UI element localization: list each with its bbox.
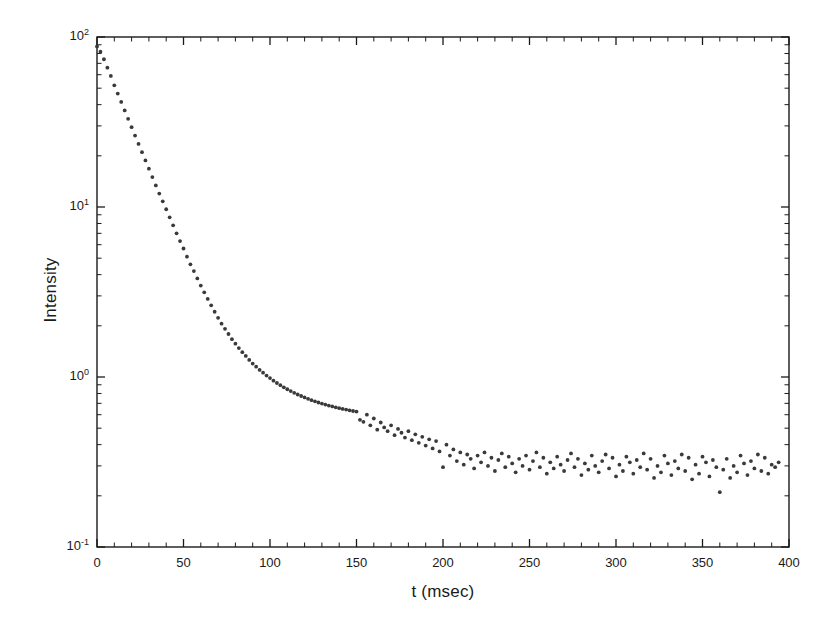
data-point <box>351 409 355 413</box>
data-point <box>368 423 372 427</box>
data-point <box>112 83 116 87</box>
data-point <box>313 399 317 403</box>
data-point <box>448 454 452 458</box>
data-point <box>669 473 673 477</box>
data-point <box>223 327 227 331</box>
data-point <box>611 456 615 460</box>
x-tick-label: 0 <box>67 555 127 570</box>
data-point <box>272 379 276 383</box>
data-point <box>763 456 767 460</box>
data-point <box>247 358 251 362</box>
data-point <box>296 393 300 397</box>
data-point <box>656 464 660 468</box>
data-point <box>445 443 449 447</box>
data-point <box>725 457 729 461</box>
data-point <box>659 470 663 474</box>
data-point <box>227 332 231 336</box>
data-point <box>348 408 352 412</box>
data-point <box>299 394 303 398</box>
data-point <box>635 458 639 462</box>
data-point <box>202 290 206 294</box>
data-point <box>690 477 694 481</box>
data-point <box>99 50 103 54</box>
y-axis-label: Intensity <box>41 240 61 340</box>
data-point <box>645 468 649 472</box>
data-point <box>586 468 590 472</box>
data-point <box>773 465 777 469</box>
data-point <box>652 476 656 480</box>
data-point <box>458 451 462 455</box>
data-point <box>528 468 532 472</box>
data-point <box>237 346 241 350</box>
data-point <box>240 350 244 354</box>
data-point <box>261 371 265 375</box>
data-point <box>189 262 193 266</box>
data-point <box>614 475 618 479</box>
y-tick-label: 101 <box>33 197 89 213</box>
data-point <box>600 459 604 463</box>
data-point <box>306 397 310 401</box>
data-point <box>147 167 151 171</box>
data-point <box>559 463 563 467</box>
x-axis-label: t (msec) <box>373 582 513 602</box>
data-point <box>195 277 199 281</box>
data-point <box>472 466 476 470</box>
data-point <box>548 460 552 464</box>
data-point <box>144 158 148 162</box>
data-point <box>337 406 341 410</box>
data-point <box>230 337 234 341</box>
data-point <box>618 463 622 467</box>
data-point <box>462 463 466 467</box>
y-tick-label: 100 <box>33 367 89 383</box>
data-point <box>521 464 525 468</box>
data-point <box>566 458 570 462</box>
data-point <box>407 429 411 433</box>
data-point <box>161 199 165 203</box>
y-tick-label: 10-1 <box>33 537 89 553</box>
data-point <box>718 490 722 494</box>
data-point <box>341 407 345 411</box>
data-point <box>631 472 635 476</box>
data-point <box>133 134 137 138</box>
data-point <box>524 454 528 458</box>
data-point <box>701 455 705 459</box>
data-point <box>493 469 497 473</box>
data-point <box>465 453 469 457</box>
data-point <box>753 466 757 470</box>
data-point <box>562 469 566 473</box>
data-point <box>372 417 376 421</box>
data-point <box>268 376 272 380</box>
data-point <box>171 223 175 227</box>
data-point <box>427 437 431 441</box>
data-point <box>476 454 480 458</box>
data-point <box>486 464 490 468</box>
data-series-intensity-decay <box>95 45 780 495</box>
data-point <box>503 465 507 469</box>
data-point <box>168 215 172 219</box>
data-point <box>130 125 134 129</box>
data-point <box>438 450 442 454</box>
data-point <box>199 284 203 288</box>
data-point <box>510 462 514 466</box>
data-point <box>95 45 99 49</box>
data-point <box>244 354 248 358</box>
data-point <box>386 429 390 433</box>
data-point <box>413 432 417 436</box>
data-point <box>379 421 383 425</box>
data-point <box>531 459 535 463</box>
data-point <box>393 433 397 437</box>
data-point <box>209 303 213 307</box>
x-tick-label: 300 <box>586 555 646 570</box>
data-point <box>254 365 258 369</box>
data-point <box>234 342 238 346</box>
data-point <box>545 472 549 476</box>
data-point <box>704 460 708 464</box>
data-point <box>697 472 701 476</box>
x-tick-label: 350 <box>673 555 733 570</box>
data-point <box>555 455 559 459</box>
data-point <box>732 464 736 468</box>
data-point <box>258 368 262 372</box>
data-point <box>182 247 186 251</box>
data-point <box>642 452 646 456</box>
data-point <box>721 468 725 472</box>
